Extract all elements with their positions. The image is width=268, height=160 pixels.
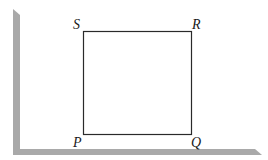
diagram-canvas <box>0 0 268 160</box>
vertex-label-s: S <box>73 18 80 32</box>
vertex-label-r: R <box>192 18 201 32</box>
card-shadow-left <box>13 9 20 149</box>
vertex-label-q: Q <box>191 136 201 150</box>
card-shadow-bottom <box>13 149 262 155</box>
vertex-label-p: P <box>73 136 82 150</box>
square-pqrs <box>84 32 192 135</box>
